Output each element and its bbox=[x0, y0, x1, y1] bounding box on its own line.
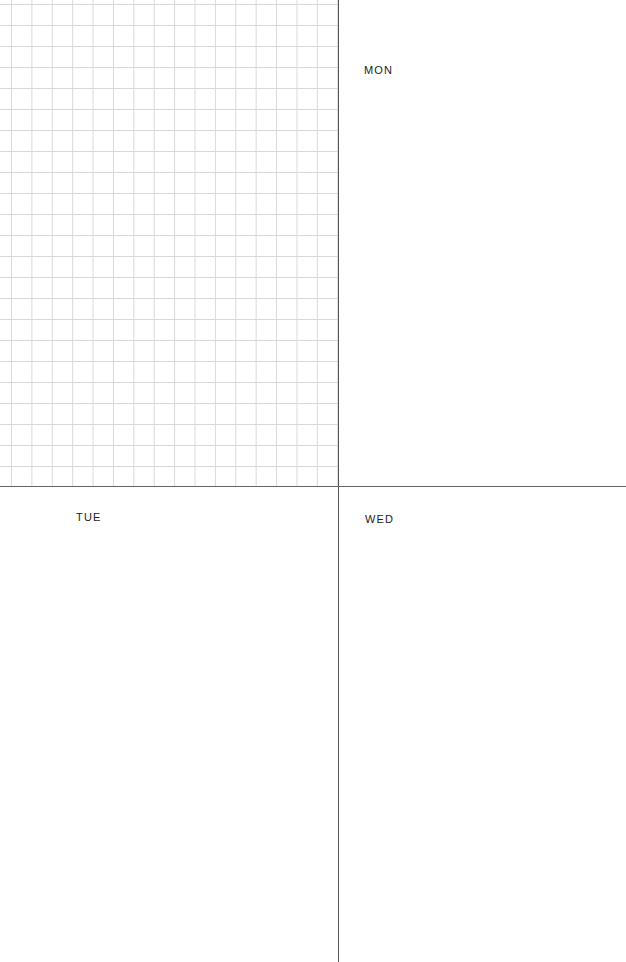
vertical-divider bbox=[338, 0, 339, 962]
day-label-monday: MON bbox=[364, 65, 393, 76]
horizontal-divider bbox=[0, 486, 626, 487]
grid-notes-area[interactable] bbox=[0, 0, 338, 486]
day-label-wednesday: WED bbox=[365, 514, 394, 525]
day-label-tuesday: TUE bbox=[76, 512, 102, 523]
